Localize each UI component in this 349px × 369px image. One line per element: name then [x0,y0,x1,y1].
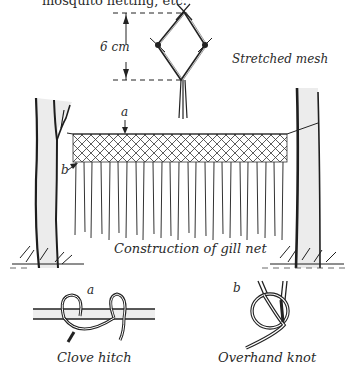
gill-net [67,120,318,240]
gill-net-label-a: a [121,105,128,119]
gill-net-label-b: b [61,163,69,177]
overhand-knot-diagram [246,281,288,348]
stretched-mesh-diagram [113,4,212,119]
clove-hitch-label-a: a [87,283,94,297]
overhand-knot-label-b: b [233,281,241,295]
mesh-size-label: 6 cm [100,40,130,54]
stretched-mesh-caption: Stretched mesh [232,52,328,66]
overhand-knot-caption: Overhand knot [218,350,316,365]
clove-hitch-caption: Clove hitch [57,350,132,365]
left-tree [10,98,84,268]
gill-net-caption: Construction of gill net [114,241,267,256]
clove-hitch-diagram [33,294,155,342]
gill-net-illustration: mosquito netting, etc. [0,0,349,369]
